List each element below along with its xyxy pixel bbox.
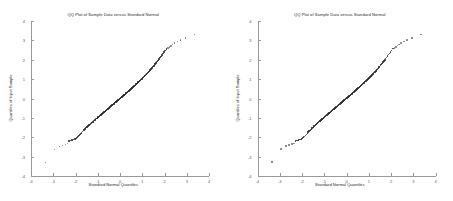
y-tick-label: 2 bbox=[23, 57, 25, 62]
x-tick-mark bbox=[209, 173, 210, 176]
y-tick-mark bbox=[258, 40, 261, 41]
data-point bbox=[280, 148, 282, 150]
y-tick-mark bbox=[31, 21, 34, 22]
y-tick-mark bbox=[31, 99, 34, 100]
y-tick-label: -1 bbox=[248, 115, 252, 120]
x-tick-mark bbox=[436, 173, 437, 176]
data-point bbox=[395, 46, 397, 48]
y-tick-label: 3 bbox=[23, 38, 25, 43]
y-tick-mark bbox=[258, 176, 261, 177]
y-tick-mark bbox=[258, 79, 261, 80]
data-point bbox=[194, 34, 196, 36]
data-point bbox=[293, 143, 295, 145]
data-point bbox=[420, 34, 422, 36]
y-tick-label: -4 bbox=[248, 174, 252, 179]
y-tick-label: -1 bbox=[21, 115, 25, 120]
x-axis-line bbox=[258, 176, 436, 177]
qq-plot-figure: QQ Plot of Sample Data versus Standard N… bbox=[0, 0, 453, 201]
x-tick-mark bbox=[391, 173, 392, 176]
x-axis-label: Standard Normal Quantiles bbox=[227, 182, 453, 187]
x-tick-mark bbox=[280, 173, 281, 176]
data-point bbox=[158, 58, 160, 60]
y-tick-mark bbox=[258, 99, 261, 100]
y-tick-label: -2 bbox=[248, 135, 252, 140]
y-tick-label: 4 bbox=[23, 19, 25, 24]
y-tick-label: 4 bbox=[249, 19, 251, 24]
data-point bbox=[389, 53, 391, 55]
page-title: QQ Plot of Sample Data versus Standard N… bbox=[0, 12, 227, 17]
y-tick-label: -2 bbox=[21, 135, 25, 140]
data-point bbox=[172, 44, 174, 46]
x-axis-label: Standard Normal Quantiles bbox=[0, 182, 227, 187]
page-title: QQ Plot of Sample Data versus Standard N… bbox=[227, 12, 453, 17]
y-tick-mark bbox=[31, 79, 34, 80]
y-tick-label: -3 bbox=[21, 154, 25, 159]
data-point bbox=[398, 44, 400, 46]
left-axes: -4-3-2-101234-4-3-2-101234 bbox=[31, 21, 209, 176]
x-tick-mark bbox=[142, 173, 143, 176]
y-tick-mark bbox=[31, 157, 34, 158]
x-tick-mark bbox=[98, 173, 99, 176]
data-point bbox=[390, 51, 392, 53]
y-tick-label: 3 bbox=[249, 38, 251, 43]
y-tick-mark bbox=[258, 118, 261, 119]
data-point bbox=[54, 149, 56, 151]
data-point bbox=[400, 42, 402, 44]
y-tick-mark bbox=[258, 21, 261, 22]
data-point bbox=[62, 145, 64, 147]
right-panel: QQ Plot of Sample Data versus Standard N… bbox=[227, 0, 453, 201]
y-tick-label: 1 bbox=[23, 77, 25, 82]
data-point bbox=[386, 57, 388, 59]
x-tick-mark bbox=[413, 173, 414, 176]
data-point bbox=[174, 42, 176, 44]
y-tick-label: -3 bbox=[248, 154, 252, 159]
y-tick-mark bbox=[258, 60, 261, 61]
data-point bbox=[67, 143, 69, 145]
data-point bbox=[285, 145, 287, 147]
data-point bbox=[170, 45, 172, 47]
data-point bbox=[391, 50, 393, 52]
x-tick-mark bbox=[187, 173, 188, 176]
data-point bbox=[387, 55, 389, 57]
data-point bbox=[384, 59, 386, 61]
y-tick-mark bbox=[31, 60, 34, 61]
x-tick-mark bbox=[302, 173, 303, 176]
data-point bbox=[65, 144, 67, 146]
y-tick-label: 0 bbox=[249, 96, 251, 101]
y-tick-mark bbox=[31, 176, 34, 177]
x-tick-mark bbox=[120, 173, 121, 176]
left-panel: QQ Plot of Sample Data versus Standard N… bbox=[0, 0, 227, 201]
data-point bbox=[164, 50, 166, 52]
data-point bbox=[411, 37, 413, 39]
data-point bbox=[185, 37, 187, 39]
y-tick-mark bbox=[258, 157, 261, 158]
y-tick-label: 0 bbox=[23, 96, 25, 101]
x-tick-mark bbox=[76, 173, 77, 176]
y-axis-label: Quantiles of Input Sample bbox=[8, 74, 13, 121]
x-tick-mark bbox=[347, 173, 348, 176]
data-point bbox=[163, 51, 165, 53]
data-point bbox=[59, 146, 61, 148]
y-tick-mark bbox=[31, 137, 34, 138]
right-axes: -4-3-2-101234-4-3-2-101234 bbox=[258, 21, 436, 176]
x-tick-mark bbox=[369, 173, 370, 176]
y-tick-label: -4 bbox=[21, 174, 25, 179]
data-point bbox=[160, 56, 162, 58]
y-tick-mark bbox=[31, 40, 34, 41]
data-point bbox=[161, 54, 163, 56]
data-point bbox=[271, 161, 273, 163]
x-tick-mark bbox=[53, 173, 54, 176]
x-axis-line bbox=[31, 176, 209, 177]
y-axis-label: Quantiles of Input Sample bbox=[234, 74, 239, 121]
data-point bbox=[397, 45, 399, 47]
data-point bbox=[180, 39, 182, 41]
x-tick-mark bbox=[165, 173, 166, 176]
x-tick-mark bbox=[324, 173, 325, 176]
data-point bbox=[403, 41, 405, 43]
data-point bbox=[406, 39, 408, 41]
y-tick-label: 1 bbox=[249, 77, 251, 82]
y-tick-mark bbox=[258, 137, 261, 138]
data-point bbox=[288, 144, 290, 146]
y-tick-label: 2 bbox=[249, 57, 251, 62]
y-tick-mark bbox=[31, 118, 34, 119]
